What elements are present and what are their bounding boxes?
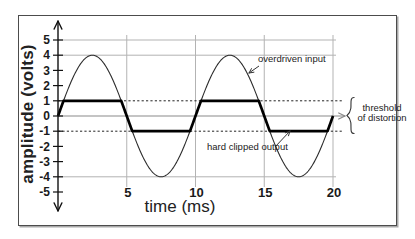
y-tick-label: -2 — [39, 140, 50, 154]
figure-canvas: 543210-1-2-3-4-55101520 amplitude (volts… — [0, 0, 415, 239]
threshold-brace — [347, 97, 355, 133]
y-tick-label: -5 — [39, 185, 50, 199]
x-tick-label: 20 — [327, 185, 341, 200]
y-tick-label: 5 — [43, 33, 50, 47]
annotation-overdriven-input: overdriven input — [258, 53, 326, 64]
x-axis-label: time (ms) — [120, 197, 240, 217]
y-tick-label: -1 — [39, 124, 50, 138]
y-tick-label: 4 — [43, 48, 50, 62]
threshold-label-line2: of distortion — [355, 113, 409, 123]
y-tick-label: 0 — [43, 109, 50, 123]
y-tick-label: 2 — [43, 79, 50, 93]
y-tick-label: -3 — [39, 155, 50, 169]
annotation-hard-clipped-output: hard clipped output — [207, 141, 288, 152]
y-tick-label: 1 — [43, 94, 50, 108]
annotation-threshold: threshold of distortion — [355, 103, 409, 123]
y-tick-label: -4 — [39, 170, 50, 184]
y-tick-label: 3 — [43, 64, 50, 78]
y-axis-label: amplitude (volts) — [19, 44, 37, 184]
x-tick-label: 15 — [258, 185, 272, 200]
